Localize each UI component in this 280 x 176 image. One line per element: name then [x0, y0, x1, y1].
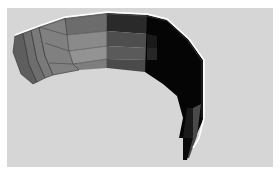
middle-panels	[107, 13, 147, 72]
curved-ribbon-surface	[7, 8, 273, 167]
render-canvas	[7, 8, 273, 167]
image-frame	[0, 0, 280, 176]
